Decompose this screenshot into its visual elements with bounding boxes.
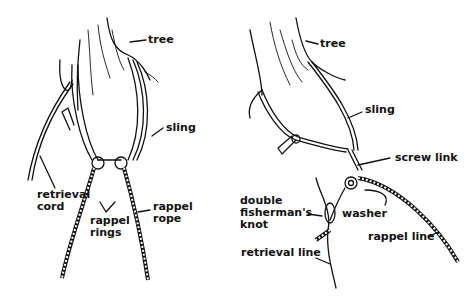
left-tree-trunk (77, 18, 158, 110)
arrow-tree-right (306, 41, 318, 44)
label-washer: washer (342, 207, 387, 220)
label-sling-right: sling (365, 103, 395, 116)
right-tree-trunk (249, 18, 345, 118)
arrow-washer (365, 190, 386, 205)
left-rappel-ring-2 (115, 157, 127, 169)
arrow-retrieval-cord (40, 156, 55, 188)
label-tree-right: tree (320, 37, 346, 50)
label-rappel-rings-2: rings (90, 226, 122, 239)
label-tree-left: tree (148, 33, 174, 46)
label-double-fishermans-3: knot (240, 218, 268, 231)
left-sling (62, 58, 148, 160)
arrow-sling-right (348, 112, 362, 118)
left-diagram: tree sling retrieval cord rappel rings r… (28, 18, 196, 280)
arrow-screw-link (358, 158, 390, 165)
right-retrieval-line (316, 178, 345, 288)
label-sling-left: sling (166, 121, 196, 134)
label-retrieval-line: retrieval line (241, 246, 321, 259)
washer-ring (345, 177, 357, 189)
arrow-rappel-rope (138, 210, 150, 212)
arrow-tree-left (130, 40, 146, 42)
label-screw-link: screw link (395, 151, 458, 164)
arrow-retrieval-line (316, 258, 330, 264)
right-sling (258, 62, 358, 154)
label-rappel-line: rappel line (368, 230, 435, 243)
right-diagram: tree sling screw link washer double fish… (240, 18, 458, 288)
label-retrieval-cord-2: cord (37, 200, 64, 213)
arrow-rappel-rings (100, 202, 115, 212)
screw-link (348, 150, 362, 170)
label-rappel-rope-2: rope (153, 212, 181, 225)
rappel-anchor-diagram: tree sling retrieval cord rappel rings r… (0, 0, 473, 296)
arrow-sling-left (152, 128, 163, 136)
